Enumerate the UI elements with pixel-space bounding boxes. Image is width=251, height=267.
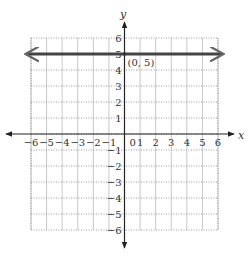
coordinate-plane: −6−5−4−3−2−10123456654321−1−2−3−4−5−6 (0… xyxy=(0,0,251,267)
y-tick-label: −1 xyxy=(107,145,122,156)
y-tick-label: 4 xyxy=(115,65,121,76)
y-axis-label: y xyxy=(119,8,127,21)
x-tick-label: −6 xyxy=(24,137,39,148)
x-tick-label: 2 xyxy=(152,137,158,148)
y-tick-label: 1 xyxy=(115,113,121,124)
x-tick-label: −3 xyxy=(70,137,85,148)
x-tick-label: −2 xyxy=(86,137,101,148)
y-tick-label: −5 xyxy=(107,209,122,220)
x-tick-label: −4 xyxy=(55,137,70,148)
x-tick-label: 3 xyxy=(168,137,174,148)
y-tick-label: 2 xyxy=(115,97,121,108)
x-tick-label: 6 xyxy=(215,137,221,148)
x-tick-label: 1 xyxy=(137,137,143,148)
point-label: (0, 5) xyxy=(128,57,155,68)
y-tick-label: −4 xyxy=(107,193,122,204)
y-tick-label: −2 xyxy=(107,161,122,172)
y-tick-label: 3 xyxy=(115,81,121,92)
x-tick-label: 4 xyxy=(184,137,190,148)
y-tick-label: −6 xyxy=(107,225,122,236)
x-tick-label: 5 xyxy=(199,137,205,148)
y-tick-label: 6 xyxy=(115,33,121,44)
x-tick-label: 0 xyxy=(130,137,136,148)
point-marker xyxy=(123,52,127,56)
x-axis-label: x xyxy=(238,129,245,142)
x-tick-label: −5 xyxy=(39,137,54,148)
graph-of-horizontal-line: −6−5−4−3−2−10123456654321−1−2−3−4−5−6 (0… xyxy=(0,0,251,267)
y-tick-label: −3 xyxy=(107,177,122,188)
